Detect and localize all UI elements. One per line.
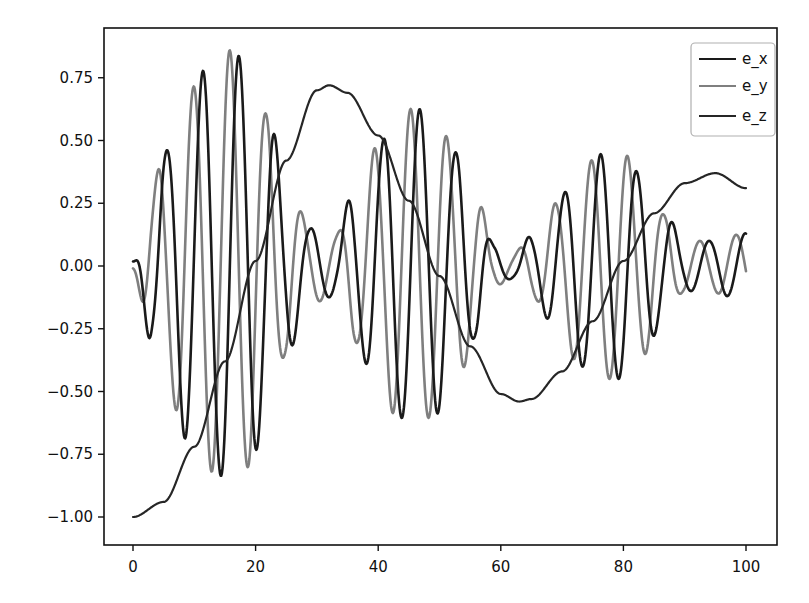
y-tick-label: 0.00 [60,257,93,275]
x-tick-label: 60 [491,558,510,576]
figure-background [0,0,809,603]
legend: e_x e_y e_z [691,43,775,136]
x-tick-label: 100 [732,558,761,576]
y-tick-label: 0.50 [60,132,93,150]
y-tick-label: −1.00 [47,508,93,526]
legend-label-e-z: e_z [742,107,767,126]
line-chart: 020406080100 0.750.500.250.00−0.25−0.50−… [0,0,809,603]
y-tick-label: −0.75 [47,445,93,463]
x-tick-label: 40 [369,558,388,576]
y-tick-label: 0.25 [60,194,93,212]
legend-label-e-x: e_x [742,50,768,69]
y-tick-label: −0.25 [47,320,93,338]
legend-label-e-y: e_y [742,77,768,96]
x-tick-label: 20 [246,558,265,576]
y-tick-label: −0.50 [47,383,93,401]
x-tick-label: 80 [614,558,633,576]
y-tick-label: 0.75 [60,69,93,87]
x-tick-label: 0 [128,558,138,576]
